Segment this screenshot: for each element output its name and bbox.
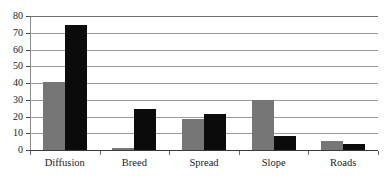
plot-area	[30, 16, 378, 150]
x-axis-category-label: Spread	[189, 156, 218, 169]
bar-chart: 01020304050607080 DiffusionBreedSpreadSl…	[0, 0, 391, 190]
x-axis-tick-mark	[308, 151, 309, 155]
y-axis-tick-label: 50	[13, 61, 23, 71]
y-axis-tick-label: 20	[13, 112, 23, 122]
x-axis-tick-mark	[239, 151, 240, 155]
y-axis-labels: 01020304050607080	[0, 0, 30, 190]
bar	[65, 25, 87, 150]
y-axis-tick-label: 80	[13, 11, 23, 21]
bar	[252, 100, 274, 150]
x-axis-tick-mark	[30, 151, 31, 155]
y-axis-tick-label: 10	[13, 128, 23, 138]
x-axis-category-label: Breed	[122, 156, 147, 169]
bar	[43, 82, 65, 150]
y-axis-tick-label: 60	[13, 45, 23, 55]
y-axis-tick-label: 70	[13, 28, 23, 38]
y-axis-tick-label: 30	[13, 95, 23, 105]
bar	[204, 114, 226, 150]
x-axis-tick-mark	[169, 151, 170, 155]
bar	[274, 136, 296, 150]
x-axis-category-label: Slope	[262, 156, 286, 169]
y-axis-tick-label: 0	[18, 145, 23, 155]
y-axis-tick-label: 40	[13, 78, 23, 88]
bar	[134, 109, 156, 150]
x-axis-line	[30, 150, 378, 151]
x-axis-category-label: Diffusion	[45, 156, 85, 169]
x-axis-tick-mark	[100, 151, 101, 155]
bar	[182, 119, 204, 150]
bar	[321, 141, 343, 150]
x-axis-tick-mark	[378, 151, 379, 155]
x-axis-category-label: Roads	[330, 156, 356, 169]
bars-layer	[30, 16, 378, 150]
